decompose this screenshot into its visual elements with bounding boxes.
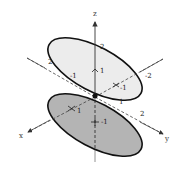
ellipse-diagram: z x y 2 1 2 -1 -2 -1 1 -1 1 2 xyxy=(0,0,178,182)
x-axis-far-out xyxy=(27,58,45,68)
label-y-2: 2 xyxy=(140,110,144,118)
y-axis-far-out xyxy=(140,59,163,72)
origin-point xyxy=(93,94,98,99)
x-axis-out xyxy=(28,120,50,132)
label-left-far: 2 xyxy=(48,58,52,66)
y-axis-out xyxy=(140,122,163,134)
label-z-1: 1 xyxy=(100,67,104,75)
z-axis-label: z xyxy=(93,10,97,18)
label-z-neg1: -1 xyxy=(101,118,108,126)
label-x-1: 1 xyxy=(77,107,81,115)
label-y-1: 1 xyxy=(119,98,123,106)
label-right-far: -2 xyxy=(145,72,152,80)
label-left-near: -1 xyxy=(70,72,77,80)
y-axis-label: y xyxy=(164,135,169,143)
x-axis-label: x xyxy=(19,132,23,140)
label-z-top: 2 xyxy=(100,43,104,51)
label-right-near: -1 xyxy=(120,84,127,92)
